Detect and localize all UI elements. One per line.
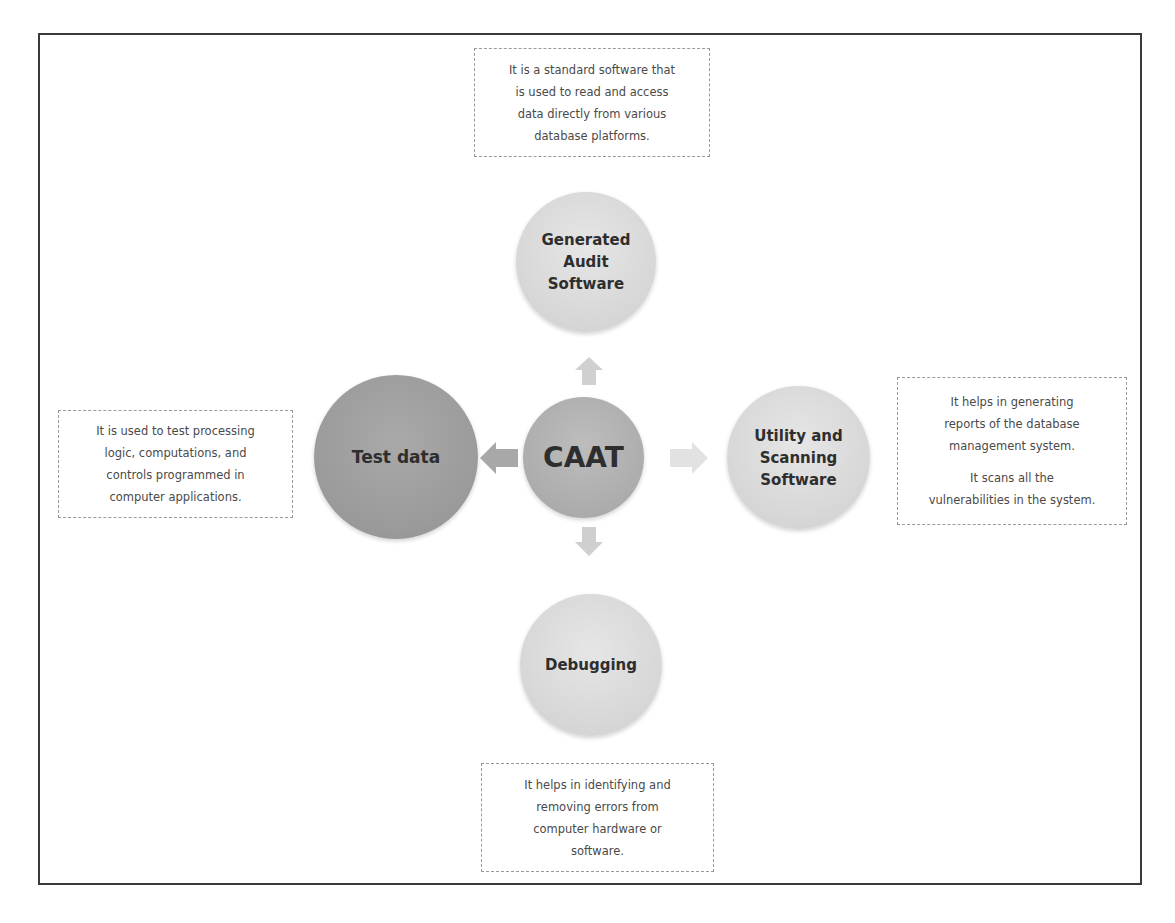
description-line: It scans all the	[929, 467, 1096, 489]
description-text: It scans all the vulnerabilities in the …	[929, 467, 1096, 511]
description-line: database platforms.	[509, 125, 675, 147]
center-label: CAAT	[543, 441, 624, 474]
description-line: data directly from various	[509, 103, 675, 125]
arrow-down-icon	[574, 526, 604, 557]
node-utility-and-scanning-software: Utility and Scanning Software	[727, 386, 870, 529]
node-test-data: Test data	[314, 375, 478, 539]
description-line: removing errors from	[524, 796, 671, 818]
description-line: controls programmed in	[96, 464, 255, 486]
description-line: It is used to test processing	[96, 420, 255, 442]
node-generated-audit-software: Generated Audit Software	[516, 192, 656, 332]
description-line: It is a standard software that	[509, 59, 675, 81]
description-text: It helps in generating reports of the da…	[944, 391, 1079, 457]
description-test-data: It is used to test processing logic, com…	[58, 410, 293, 518]
arrow-up-icon	[574, 356, 604, 386]
description-line: logic, computations, and	[96, 442, 255, 464]
node-debugging: Debugging	[520, 594, 662, 736]
description-line: is used to read and access	[509, 81, 675, 103]
description-line: management system.	[944, 435, 1079, 457]
description-text: It is a standard software that is used t…	[509, 59, 675, 147]
arrow-left-icon	[479, 440, 519, 476]
description-debugging: It helps in identifying and removing err…	[481, 763, 714, 872]
description-utility-and-scanning-software: It helps in generating reports of the da…	[897, 377, 1127, 525]
arrow-right-icon	[669, 440, 709, 476]
node-caat-center: CAAT	[523, 397, 644, 518]
description-line: reports of the database	[944, 413, 1079, 435]
node-label-line: Audit	[542, 251, 631, 273]
description-generated-audit-software: It is a standard software that is used t…	[474, 48, 710, 157]
description-line: computer applications.	[96, 486, 255, 508]
description-line: software.	[524, 840, 671, 862]
description-line: It helps in identifying and	[524, 774, 671, 796]
node-label-line: Generated	[542, 229, 631, 251]
node-label-line: Utility and	[754, 425, 842, 447]
description-line: vulnerabilities in the system.	[929, 489, 1096, 511]
node-label: Debugging	[545, 654, 637, 676]
description-line: computer hardware or	[524, 818, 671, 840]
description-text: It helps in identifying and removing err…	[524, 774, 671, 862]
node-label-line: Software	[754, 469, 842, 491]
description-text: It is used to test processing logic, com…	[96, 420, 255, 508]
node-label-line: Scanning	[754, 447, 842, 469]
node-label-line: Software	[542, 273, 631, 295]
node-label: Test data	[352, 447, 440, 467]
description-line: It helps in generating	[944, 391, 1079, 413]
